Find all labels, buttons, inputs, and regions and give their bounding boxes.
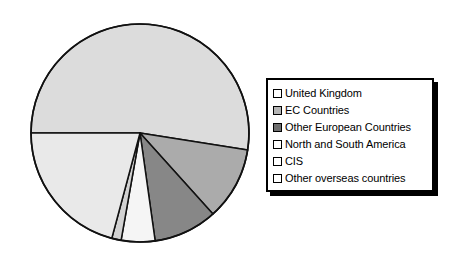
legend-swatch-other-overseas-countries bbox=[273, 174, 282, 183]
legend-label-cis: CIS bbox=[285, 156, 303, 167]
pie-chart-area bbox=[0, 0, 270, 258]
pie-chart-figure: United Kingdom EC Countries Other Europe… bbox=[0, 0, 455, 258]
legend-swatch-cis bbox=[273, 157, 282, 166]
legend-swatch-united-kingdom bbox=[273, 89, 282, 98]
legend-item-north-and-south-america[interactable]: North and South America bbox=[273, 136, 428, 152]
legend-swatch-other-european-countries bbox=[273, 123, 282, 132]
legend-item-cis[interactable]: CIS bbox=[273, 153, 428, 169]
legend-swatch-ec-countries bbox=[273, 106, 282, 115]
pie-chart-svg bbox=[0, 0, 270, 258]
legend-list: United Kingdom EC Countries Other Europe… bbox=[273, 85, 428, 186]
legend-swatch-north-and-south-america bbox=[273, 140, 282, 149]
legend-item-other-overseas-countries[interactable]: Other overseas countries bbox=[273, 170, 428, 186]
pie-slice-group bbox=[31, 24, 249, 242]
legend-item-other-european-countries[interactable]: Other European Countries bbox=[273, 119, 428, 135]
legend-label-ec-countries: EC Countries bbox=[285, 105, 349, 116]
legend-item-ec-countries[interactable]: EC Countries bbox=[273, 102, 428, 118]
legend-label-other-european-countries: Other European Countries bbox=[285, 122, 411, 133]
pie-slice[interactable] bbox=[31, 24, 249, 150]
legend-label-other-overseas-countries: Other overseas countries bbox=[285, 173, 406, 184]
legend-label-united-kingdom: United Kingdom bbox=[285, 88, 362, 99]
legend-box: United Kingdom EC Countries Other Europe… bbox=[266, 78, 434, 192]
legend-label-north-and-south-america: North and South America bbox=[285, 139, 406, 150]
legend-item-united-kingdom[interactable]: United Kingdom bbox=[273, 85, 428, 101]
